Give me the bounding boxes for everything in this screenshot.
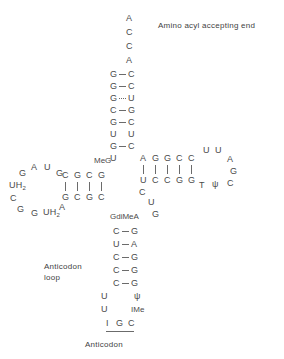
- tpsic-bottom-strand-4: G: [188, 176, 195, 185]
- anticodon-stem-bond-2: [122, 257, 129, 258]
- acceptor-stem-left-4: G: [110, 118, 117, 127]
- d-loop-base-u-upper: U: [44, 163, 51, 172]
- acceptor-end-base-c1: C: [126, 28, 133, 37]
- variable-loop-base-c: C: [139, 188, 146, 197]
- tpsic-bottom-strand-1: C: [152, 176, 159, 185]
- anticodon-loop-right-base-ime: IMe: [131, 306, 144, 314]
- d-loop-base-uh2-left: UH2: [9, 181, 26, 191]
- acceptor-stem-right-3: G: [128, 106, 135, 115]
- tpsic-bond-4: [191, 165, 192, 174]
- anticodon-stem-bond-0: [122, 231, 129, 232]
- anticodon-stem-right-1: A: [131, 240, 137, 249]
- acceptor-stem-right-0: C: [128, 70, 135, 79]
- anticodon-loop-left-base-1: U: [101, 305, 108, 314]
- d-stem-bottom-strand-0: G: [62, 193, 69, 202]
- d-loop-base-a-lower: A: [59, 203, 65, 212]
- d-stem-top-strand-2: C: [86, 171, 93, 180]
- acceptor-stem-bond-6: [119, 146, 126, 147]
- d-stem-bond-1: [77, 182, 78, 191]
- tpsic-bottom-strand-0: U: [140, 176, 147, 185]
- anticodon-base-i: I: [106, 319, 109, 328]
- d-loop-base-g-lower-left: G: [17, 205, 24, 214]
- acceptor-stem-bond-3: [119, 110, 126, 111]
- tpsic-loop-base-a: A: [227, 155, 233, 164]
- amino-acyl-accepting-end-label: Amino acyl accepting end: [158, 21, 255, 32]
- tpsic-bond-2: [167, 165, 168, 174]
- acceptor-stem-left-6: G: [110, 142, 117, 151]
- anticodon-stem-right-2: G: [131, 253, 138, 262]
- d-loop-base-g-upper-left: G: [19, 169, 26, 178]
- d-stem-top-strand-3: G: [98, 171, 105, 180]
- variable-loop-base-g: G: [152, 210, 159, 219]
- tpsic-top-strand-1: G: [152, 154, 159, 163]
- tpsic-top-strand-3: C: [176, 154, 183, 163]
- anticodon-stem-right-3: G: [131, 266, 138, 275]
- anticodon-base-c: C: [128, 319, 135, 328]
- tpsic-loop-base-t: T: [199, 181, 205, 190]
- tpsic-bond-1: [155, 165, 156, 174]
- anticodon-loop-right-base-psi: ψ: [134, 292, 141, 301]
- anticodon-loop-label: Anticodon loop: [44, 262, 82, 283]
- anticodon-stem-left-2: C: [113, 253, 120, 262]
- acceptor-stem-bond-2: [119, 98, 126, 100]
- acceptor-stem-bond-0: [119, 74, 126, 75]
- trna-cloverleaf-diagram: Amino acyl accepting end A C C A G C G C…: [0, 0, 284, 359]
- d-stem-bond-2: [89, 182, 90, 191]
- tpsic-top-strand-2: G: [164, 154, 171, 163]
- anticodon-loop-left-base-0: U: [101, 292, 108, 301]
- acceptor-stem-left-1: G: [110, 82, 117, 91]
- d-stem-bottom-strand-2: G: [86, 193, 93, 202]
- anticodon-stem-left-3: C: [113, 266, 120, 275]
- d-loop-base-g-upper-right: G: [56, 169, 63, 178]
- uh2-subscript-left: 2: [22, 185, 26, 191]
- tpsic-bond-0: [143, 165, 144, 174]
- acceptor-end-base-a2: A: [126, 56, 132, 65]
- anticodon-stem-bond-3: [122, 270, 129, 271]
- d-arm-modified-meg-label: MeG: [94, 157, 111, 165]
- tpsic-loop-base-u2: U: [215, 146, 222, 155]
- acceptor-stem-bond-1: [119, 86, 126, 87]
- acceptor-stem-right-2: U: [128, 94, 135, 103]
- anticodon-stem-left-0: C: [113, 227, 120, 236]
- acceptor-stem-right-1: C: [128, 82, 135, 91]
- tpsic-loop-base-psi: ψ: [212, 180, 219, 189]
- acceptor-stem-bond-4: [119, 122, 126, 123]
- d-stem-bottom-strand-1: C: [74, 193, 81, 202]
- tpsic-loop-base-c: C: [227, 179, 234, 188]
- tpsic-bond-3: [179, 165, 180, 174]
- tpsic-top-strand-4: C: [188, 154, 195, 163]
- acceptor-stem-left-0: G: [110, 70, 117, 79]
- d-loop-base-g-lower-mid: G: [31, 209, 38, 218]
- acceptor-stem-right-6: C: [128, 142, 135, 151]
- tpsic-bottom-strand-3: G: [176, 176, 183, 185]
- anticodon-underline: [106, 331, 134, 332]
- d-stem-bond-3: [101, 182, 102, 191]
- d-stem-bond-0: [65, 182, 66, 191]
- anticodon-arm-modified-gdimea-label: GdiMeA: [110, 213, 139, 221]
- tpsic-bottom-strand-2: C: [164, 176, 171, 185]
- anticodon-stem-bond-1: [122, 244, 129, 245]
- anticodon-base-g: G: [116, 319, 123, 328]
- acceptor-stem-left-2: G: [110, 94, 117, 103]
- acceptor-stem-right-5: U: [128, 130, 135, 139]
- anticodon-stem-right-4: G: [131, 279, 138, 288]
- acceptor-end-base-c2: C: [126, 42, 133, 51]
- uh2-subscript-lower: 2: [56, 212, 60, 218]
- acceptor-stem-left-5: U: [110, 130, 117, 139]
- anticodon-label: Anticodon: [85, 340, 123, 351]
- acceptor-stem-left-3: C: [110, 106, 117, 115]
- anticodon-stem-left-1: U: [113, 240, 120, 249]
- acceptor-end-base-a1: A: [126, 14, 132, 23]
- d-stem-bottom-strand-3: C: [98, 193, 105, 202]
- variable-loop-base-u: U: [148, 198, 155, 207]
- anticodon-stem-bond-4: [122, 283, 129, 284]
- d-loop-base-c-left: C: [10, 194, 17, 203]
- anticodon-stem-left-4: C: [113, 279, 120, 288]
- tpsic-top-strand-0: A: [140, 154, 146, 163]
- d-stem-top-strand-1: G: [74, 171, 81, 180]
- d-loop-base-uh2-lower: UH2: [43, 208, 60, 218]
- anticodon-stem-right-0: G: [131, 227, 138, 236]
- tpsic-loop-base-g: G: [230, 167, 237, 176]
- acceptor-stem-right-4: C: [128, 118, 135, 127]
- d-loop-base-a-upper: A: [31, 163, 37, 172]
